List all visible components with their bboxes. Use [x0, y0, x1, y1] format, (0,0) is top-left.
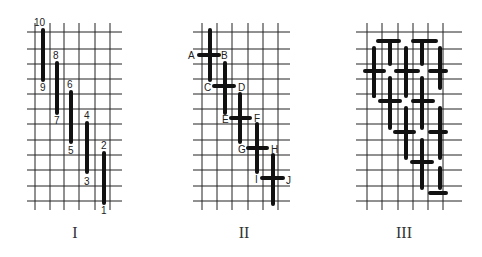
point-label: H — [271, 144, 278, 155]
point-label: I — [255, 174, 258, 185]
point-label: 9 — [40, 82, 46, 93]
panel-1: 10987654321 — [27, 17, 122, 216]
point-label: C — [204, 82, 211, 93]
point-label: 6 — [67, 79, 73, 90]
point-label: G — [238, 144, 246, 155]
point-label: 10 — [34, 17, 46, 28]
point-label: J — [286, 175, 291, 186]
point-label: B — [221, 50, 228, 61]
point-label: F — [254, 113, 260, 124]
panel-2: ABCDEFGHIJ — [188, 23, 291, 210]
caption-panel-3: III — [396, 224, 412, 242]
point-label: E — [222, 114, 229, 125]
point-label: 1 — [101, 205, 107, 216]
point-label: A — [188, 50, 195, 61]
point-label: 7 — [54, 115, 60, 126]
point-label: 4 — [84, 110, 90, 121]
point-label: 5 — [68, 145, 74, 156]
point-label: D — [238, 82, 245, 93]
point-label: 8 — [53, 50, 59, 61]
point-label: 2 — [101, 140, 107, 151]
grid-lines — [356, 23, 462, 210]
caption-panel-2: II — [239, 224, 250, 242]
panel-3 — [356, 23, 462, 210]
stitch-diagram: 10987654321ABCDEFGHIJ — [0, 0, 482, 257]
point-label: 3 — [84, 176, 90, 187]
caption-panel-1: I — [72, 224, 77, 242]
